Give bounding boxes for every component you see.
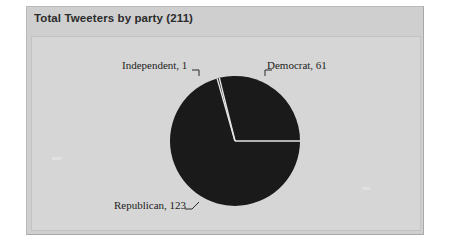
background-speck bbox=[52, 157, 62, 160]
background-speck bbox=[362, 187, 370, 190]
plot-area: Independent, 1 Democrat, 61 Republican, … bbox=[31, 36, 421, 231]
chart-title-band: Total Tweeters by party (211) bbox=[27, 7, 423, 36]
pie-label-independent: Independent, 1 bbox=[122, 60, 187, 71]
page-title: Total Tweeters by party (211) bbox=[34, 12, 193, 24]
pie-label-democrat: Democrat, 61 bbox=[267, 60, 327, 71]
screenshot-root: Total Tweeters by party (211) bbox=[0, 0, 450, 248]
pie-label-republican: Republican, 123 bbox=[114, 200, 186, 211]
leader-line-independent bbox=[192, 70, 199, 76]
pie-chart-svg bbox=[32, 37, 421, 231]
leader-line-republican bbox=[185, 202, 199, 209]
chart-panel: Total Tweeters by party (211) bbox=[26, 6, 424, 235]
